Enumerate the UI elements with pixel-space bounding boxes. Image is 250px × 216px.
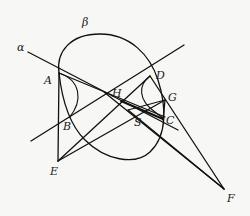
label-G: G [168, 91, 177, 104]
line-S-F [128, 110, 224, 189]
label-D: D [155, 69, 165, 82]
label-S: S [134, 116, 142, 129]
line-EG [58, 100, 165, 161]
label-alpha: α [17, 41, 25, 54]
label-E: E [49, 165, 58, 178]
label-B: B [62, 120, 71, 133]
label-H: H [111, 87, 122, 100]
geometry-diagram: α β A B D G H S C E F [0, 0, 250, 216]
label-A: A [43, 74, 52, 87]
diagram-svg: α β A B D G H S C E F [0, 0, 250, 216]
label-beta: β [81, 16, 88, 29]
line-G-S [128, 100, 165, 110]
label-C: C [166, 114, 175, 127]
label-F: F [226, 192, 235, 205]
line-AE [58, 73, 59, 161]
